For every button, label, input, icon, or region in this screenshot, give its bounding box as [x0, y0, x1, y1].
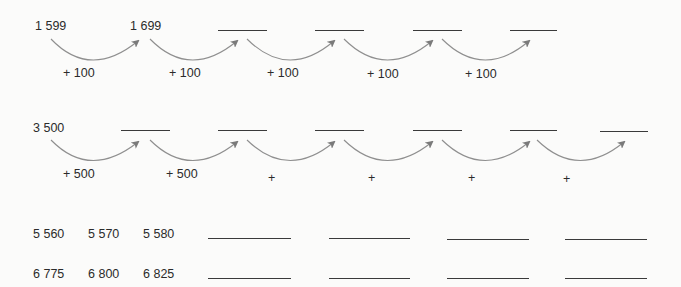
answer-blank[interactable]	[121, 130, 170, 131]
answer-blank[interactable]	[600, 131, 648, 132]
answer-blank[interactable]	[565, 239, 647, 240]
answer-blank[interactable]	[218, 30, 267, 31]
answer-blank[interactable]	[413, 130, 462, 131]
start-value: 1 599	[35, 19, 66, 33]
step-label: + 100	[63, 66, 95, 80]
step-label: + 100	[465, 67, 497, 81]
step-label-blank: +	[563, 172, 570, 186]
answer-blank[interactable]	[329, 238, 410, 239]
step-label-blank: +	[268, 171, 275, 185]
answer-blank[interactable]	[329, 278, 410, 279]
sequence-value: 5 580	[143, 227, 174, 241]
step-label: + 100	[367, 67, 399, 81]
sequence-value: 5 570	[88, 227, 119, 241]
sequence-value: 1 699	[130, 19, 161, 33]
answer-blank[interactable]	[510, 30, 557, 31]
answer-blank[interactable]	[413, 30, 462, 31]
sequence-value: 6 800	[88, 267, 119, 281]
answer-blank[interactable]	[208, 238, 291, 239]
answer-blank[interactable]	[315, 130, 364, 131]
step-label-blank: +	[368, 171, 375, 185]
answer-blank[interactable]	[208, 278, 291, 279]
sequence-value: 5 560	[33, 227, 64, 241]
answer-blank[interactable]	[510, 130, 557, 131]
start-value: 3 500	[33, 121, 64, 135]
answer-blank[interactable]	[447, 239, 529, 240]
sequence-value: 6 825	[143, 267, 174, 281]
step-label: + 100	[267, 66, 299, 80]
step-label: + 500	[63, 167, 95, 181]
answer-blank[interactable]	[218, 130, 267, 131]
sequence-value: 6 775	[33, 267, 64, 281]
step-label: + 100	[169, 66, 201, 80]
answer-blank[interactable]	[447, 278, 529, 279]
jump-arcs	[0, 0, 681, 287]
step-label-blank: +	[468, 171, 475, 185]
answer-blank[interactable]	[565, 278, 647, 279]
step-label: + 500	[166, 167, 198, 181]
answer-blank[interactable]	[315, 30, 364, 31]
